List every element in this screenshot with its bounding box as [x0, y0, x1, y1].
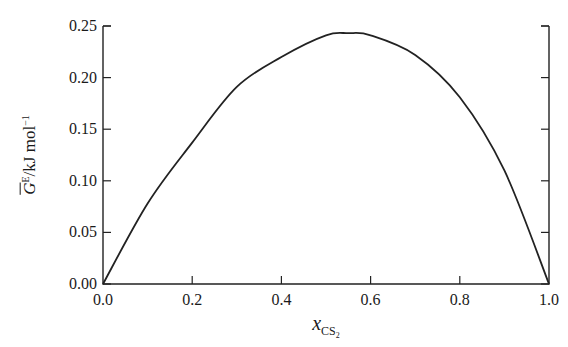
x-tick-label: 0.6 [361, 291, 381, 308]
y-label-unit-exponent: −1 [20, 115, 31, 126]
tick-labels: 0.000.050.100.150.200.250.00.20.40.60.81… [69, 17, 559, 308]
y-tick-label: 0.25 [69, 17, 97, 34]
x-axis-label: xCS2 [312, 312, 340, 340]
x-label-subsubscript: 2 [336, 331, 340, 340]
axes [103, 26, 549, 284]
x-tick-label: 1.0 [539, 291, 559, 308]
plot-canvas: 0.000.050.100.150.200.250.00.20.40.60.81… [0, 0, 568, 347]
y-tick-label: 0.10 [69, 172, 97, 189]
y-tick-label: 0.20 [69, 69, 97, 86]
y-label-symbol: G [20, 183, 39, 195]
x-tick-label: 0.4 [271, 291, 291, 308]
x-label-subscript: CS [321, 324, 336, 338]
y-tick-label: 0.05 [69, 223, 97, 240]
x-tick-label: 0.2 [182, 291, 202, 308]
y-axis-label: GE/kJ mol−1 [20, 115, 41, 195]
tick-marks [103, 26, 549, 284]
y-tick-label: 0.00 [69, 275, 97, 292]
excess-gibbs-curve [103, 33, 549, 284]
y-label-superscript: E [20, 176, 31, 182]
x-tick-label: 0.8 [450, 291, 470, 308]
x-label-variable: x [312, 312, 321, 334]
y-tick-label: 0.15 [69, 120, 97, 137]
axis-frame [103, 26, 549, 284]
y-label-unit: /kJ mol [20, 126, 39, 177]
x-tick-label: 0.0 [93, 291, 113, 308]
